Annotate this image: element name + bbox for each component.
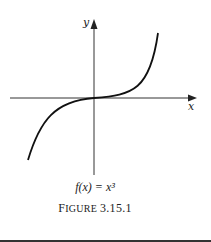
y-axis-arrow-icon xyxy=(91,19,98,29)
figure-caption: FIGURE 3.15.1 xyxy=(0,201,190,216)
caption-number: 3.15.1 xyxy=(100,201,132,215)
y-axis-label: y xyxy=(83,16,89,29)
function-label: f(x) = x³ xyxy=(0,180,190,195)
caption-word: IGURE xyxy=(65,203,97,214)
x-axis-label: x xyxy=(188,100,194,113)
cubic-curve xyxy=(28,33,158,160)
